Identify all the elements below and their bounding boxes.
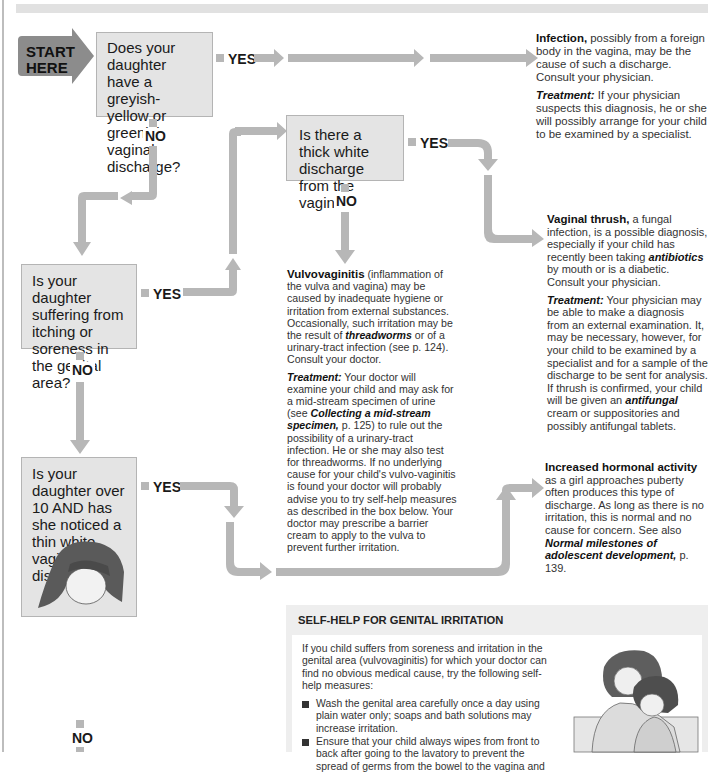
- selfhelp-content: If you child suffers from soreness and i…: [292, 635, 702, 752]
- selfhelp-intro: If you child suffers from soreness and i…: [302, 643, 552, 692]
- vulvovaginitis-treatment: Treatment: Your doctor will examine your…: [287, 371, 457, 554]
- q1-no-stub: [149, 119, 157, 127]
- outcome-infection: Infection, possibly from a foreign body …: [536, 32, 708, 146]
- q4-no-label: NO: [70, 730, 95, 746]
- q1-yes-stub: [216, 54, 224, 62]
- page-left-rule: [2, 0, 4, 752]
- q3-no-arrow-icon: [68, 382, 92, 454]
- q2-yes-label: YES: [418, 135, 450, 151]
- to-hormonal-arrow-icon: [502, 476, 546, 506]
- infection-paragraph: Infection, possibly from a foreign body …: [536, 32, 708, 84]
- outcome-vulvovaginitis: Vulvovaginitis (inflammation of the vulv…: [287, 268, 457, 559]
- thrush-treatment2: cream or suppositories and possibly anti…: [547, 407, 680, 432]
- vulvovaginitis-paragraph: Vulvovaginitis (inflammation of the vulv…: [287, 268, 457, 366]
- thrush-treatment-label: Treatment:: [547, 294, 604, 306]
- thrush-treatment1: Your physician may be able to make a dia…: [547, 294, 708, 407]
- mother-and-child-illustration-icon: [564, 647, 698, 752]
- start-line1: START: [26, 44, 75, 60]
- question-box-q3: Is your daughter suffering from itching …: [21, 264, 137, 349]
- vulvovaginitis-treatment-label: Treatment:: [287, 371, 342, 383]
- hormonal-text1: as a girl approaches puberty often produ…: [545, 474, 704, 536]
- girl-illustration-icon: [24, 542, 134, 614]
- q1-yes-arrow-icon: [254, 48, 538, 68]
- bullet-square-icon: [302, 739, 309, 746]
- hormonal-title: Increased hormonal activity: [545, 461, 697, 473]
- start-here-label: START HERE: [26, 44, 75, 76]
- vulvovaginitis-em1: threadworms: [345, 329, 412, 341]
- q2-no-arrow-icon: [333, 212, 357, 264]
- question-box-q2: Is there a thick white discharge from th…: [286, 115, 404, 181]
- q2-no-label: NO: [334, 193, 359, 209]
- infection-treatment-label: Treatment:: [536, 89, 595, 101]
- selfhelp-item: Wash the genital area carefully once a d…: [302, 698, 552, 735]
- question-box-q4: Is your daughter over 10 AND has she not…: [21, 457, 137, 617]
- selfhelp-list: Wash the genital area carefully once a d…: [302, 698, 552, 773]
- q1-no-arrow-icon: [70, 146, 162, 258]
- q2-yes-arrow-icon: [448, 135, 544, 247]
- selfhelp-body: If you child suffers from soreness and i…: [302, 643, 552, 774]
- selfhelp-box: SELF-HELP FOR GENITAL IRRITATION If you …: [286, 605, 708, 752]
- header-bar: [16, 4, 708, 13]
- hormonal-paragraph: Increased hormonal activity as a girl ap…: [545, 461, 708, 574]
- q1-no-label: NO: [143, 128, 168, 144]
- q4-yes-label: YES: [151, 479, 183, 495]
- q3-to-q2-arrow-icon: [229, 121, 289, 141]
- q3-no-label: NO: [70, 362, 95, 378]
- question-box-q1: Does your daughter have a greyish-yellow…: [96, 32, 213, 117]
- thrush-paragraph: Vaginal thrush, a fungal infection, is a…: [547, 213, 708, 289]
- selfhelp-title: SELF-HELP FOR GENITAL IRRITATION: [298, 614, 503, 626]
- q2-yes-stub: [408, 138, 416, 146]
- bullet-square-icon: [302, 701, 309, 708]
- q4-no-arrow: [76, 747, 84, 752]
- outcome-vaginal-thrush: Vaginal thrush, a fungal infection, is a…: [547, 213, 708, 437]
- infection-treatment: Treatment: If your physician suspects th…: [536, 89, 708, 141]
- hormonal-em1: Normal milestones of adolescent developm…: [545, 537, 676, 562]
- selfhelp-item-text: Wash the genital area carefully once a d…: [316, 698, 540, 734]
- q3-yes-label: YES: [151, 286, 183, 302]
- outcome-hormonal-activity: Increased hormonal activity as a girl ap…: [545, 461, 708, 579]
- q2-no-stub: [341, 184, 349, 192]
- selfhelp-header: SELF-HELP FOR GENITAL IRRITATION: [286, 605, 708, 635]
- vulvovaginitis-title: Vulvovaginitis: [287, 268, 365, 280]
- thrush-treatment: Treatment: Your physician may be able to…: [547, 294, 708, 433]
- vulvovaginitis-treatment2: p. 125) to rule out the possibility of a…: [287, 419, 457, 553]
- q4-yes-stub: [141, 482, 149, 490]
- thrush-em1: antibiotics: [649, 251, 704, 263]
- q3-no-stub: [76, 352, 84, 360]
- selfhelp-item: Ensure that your child always wipes from…: [302, 736, 552, 773]
- infection-title: Infection,: [536, 32, 587, 44]
- thrush-text2: by mouth or is a diabetic. Consult your …: [547, 263, 669, 288]
- start-line2: HERE: [26, 60, 75, 76]
- thrush-em2: antifungal: [625, 394, 678, 406]
- selfhelp-item-text: Ensure that your child always wipes from…: [316, 736, 545, 772]
- thrush-title: Vaginal thrush,: [547, 213, 629, 225]
- q4-no-stub: [76, 720, 84, 728]
- q3-yes-stub: [141, 289, 149, 297]
